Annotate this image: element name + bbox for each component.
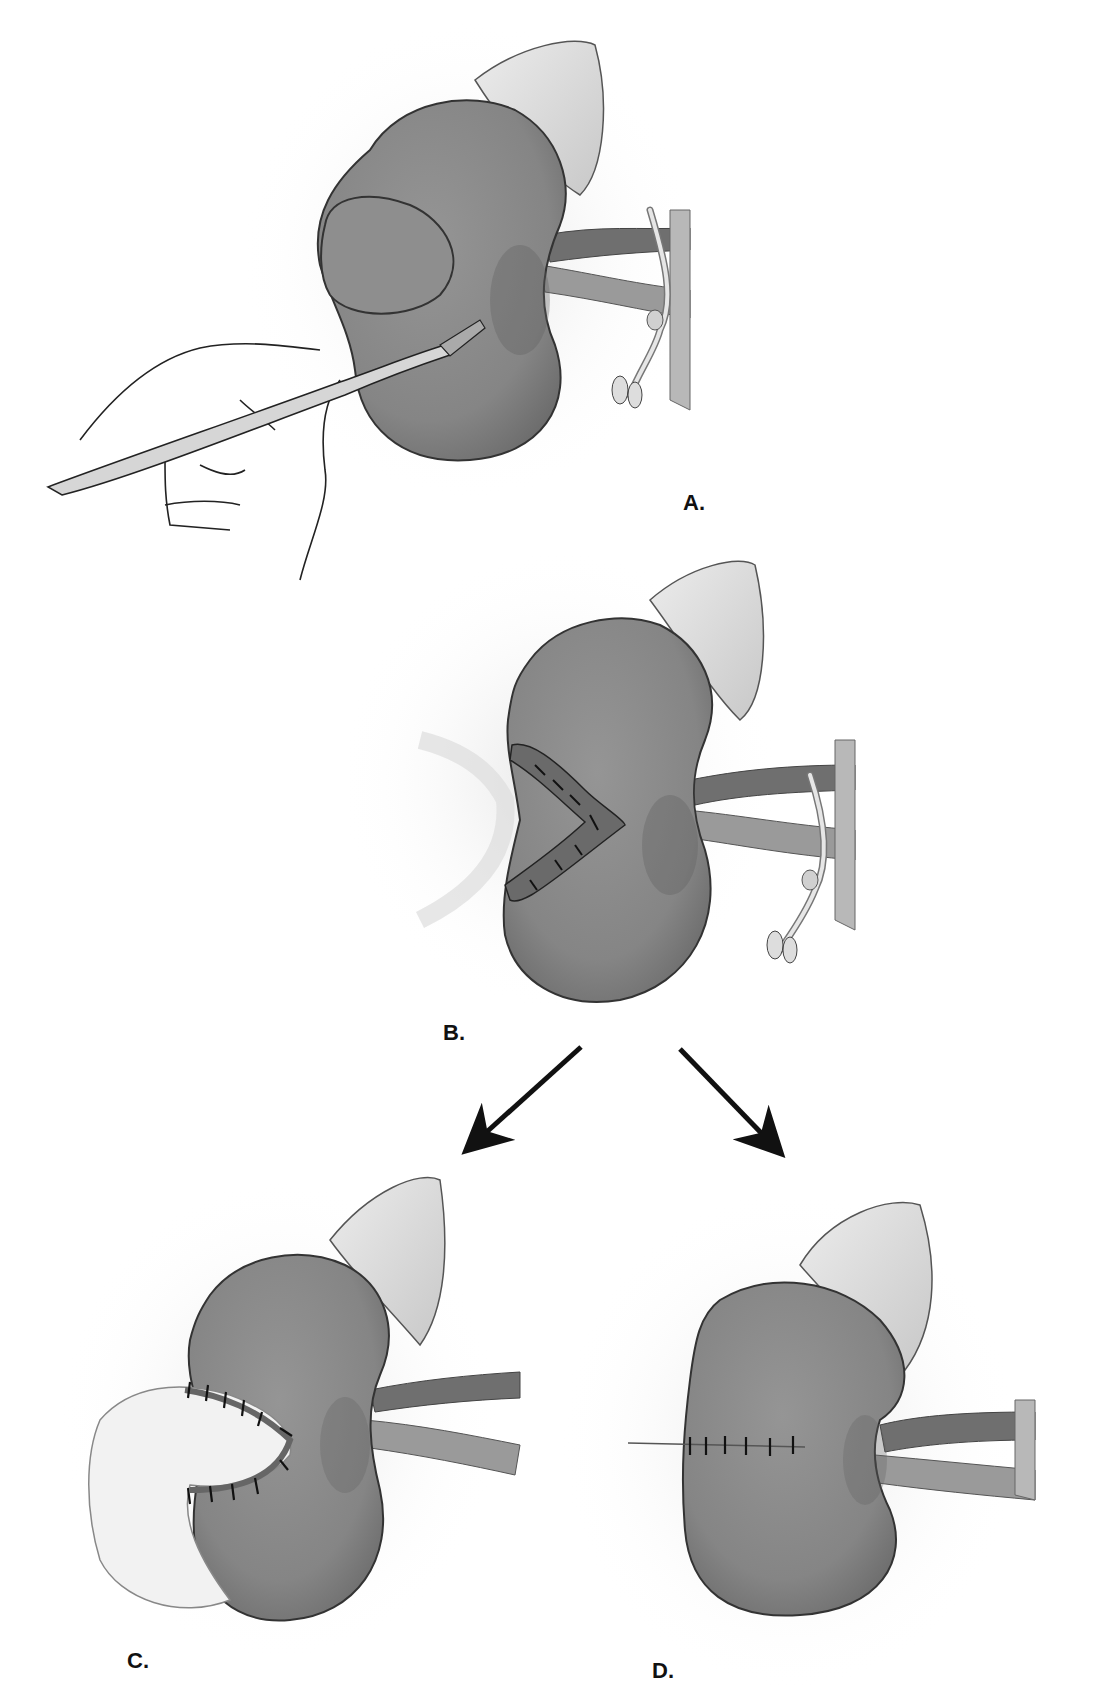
panel-label-b: B. [443,1020,465,1045]
panel-a [48,20,700,580]
panel-b [340,550,855,1010]
figure-caption [10,1690,1090,1702]
figure-canvas: A. B. [0,0,1095,1702]
hilum-shadow [843,1415,887,1505]
panel-c [60,1178,520,1661]
hilum-shadow [642,795,698,895]
panel-label-d: D. [652,1658,674,1683]
panel-label-a: A. [683,490,705,515]
panel-d [560,1190,1035,1690]
hilum-shadow [490,245,550,355]
arrow-to-c [480,1047,581,1138]
hilum-shadow [320,1397,370,1493]
panel-label-c: C. [127,1648,149,1673]
arrow-to-d [680,1049,768,1140]
